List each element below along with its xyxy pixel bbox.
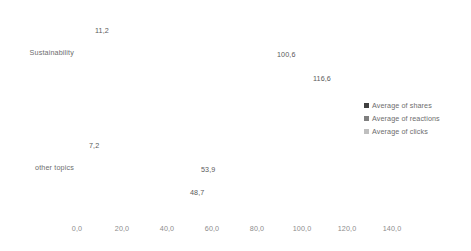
bar-row-sustainability-clicks bbox=[77, 68, 339, 93]
x-tick-40: 40,0 bbox=[152, 224, 182, 233]
bar-row-other-topics-clicks bbox=[77, 181, 186, 205]
x-axis: 0,0 20,0 40,0 60,0 80,0 100,0 120,0 140,… bbox=[0, 224, 471, 240]
legend-label-shares: Average of shares bbox=[372, 101, 432, 110]
x-tick-20: 20,0 bbox=[107, 224, 137, 233]
legend-item-shares[interactable]: Average of shares bbox=[364, 99, 470, 112]
bar-value-sustainability-shares: 11,2 bbox=[95, 26, 109, 35]
legend-swatch-shares-icon bbox=[364, 103, 369, 108]
bar-value-other-topics-clicks: 48,7 bbox=[190, 188, 204, 197]
category-label-other-topics: other topics bbox=[0, 163, 74, 172]
legend-label-clicks: Average of clicks bbox=[372, 127, 428, 136]
legend-item-clicks[interactable]: Average of clicks bbox=[364, 125, 470, 138]
legend-label-reactions: Average of reactions bbox=[372, 114, 440, 123]
bar-value-other-topics-shares: 7,2 bbox=[89, 141, 99, 150]
bar-value-other-topics-reactions: 53,9 bbox=[201, 165, 215, 174]
bar-chart: Sustainability 11,2 100,6 116,6 other to… bbox=[0, 0, 471, 251]
legend: Average of shares Average of reactions A… bbox=[364, 99, 470, 138]
legend-swatch-clicks-icon bbox=[364, 129, 369, 134]
x-tick-80: 80,0 bbox=[242, 224, 272, 233]
category-label-sustainability: Sustainability bbox=[0, 48, 74, 57]
bar-group-sustainability: Sustainability 11,2 100,6 116,6 bbox=[0, 0, 471, 100]
x-tick-140: 140,0 bbox=[377, 224, 407, 233]
bar-group-other-topics: other topics 7,2 53,9 48,7 bbox=[0, 130, 471, 220]
x-tick-0: 0,0 bbox=[62, 224, 92, 233]
bar-row-other-topics-reactions bbox=[77, 157, 198, 181]
bar-value-sustainability-clicks: 116,6 bbox=[313, 74, 331, 83]
bar-row-sustainability-reactions bbox=[77, 43, 303, 68]
x-tick-120: 120,0 bbox=[332, 224, 362, 233]
legend-item-reactions[interactable]: Average of reactions bbox=[364, 112, 470, 125]
x-tick-60: 60,0 bbox=[197, 224, 227, 233]
bar-value-sustainability-reactions: 100,6 bbox=[277, 50, 296, 59]
legend-swatch-reactions-icon bbox=[364, 116, 369, 121]
x-tick-100: 100,0 bbox=[287, 224, 317, 233]
